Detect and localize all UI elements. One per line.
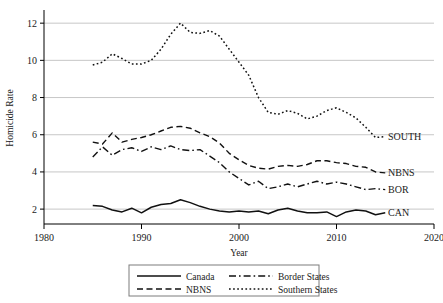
chart-canvas: 2468101219801990200020102020YearHomicide… bbox=[0, 0, 443, 303]
legend-label-canada: Canada bbox=[186, 272, 215, 282]
x-tick-label-2010: 2010 bbox=[327, 232, 347, 243]
y-tick-label-10: 10 bbox=[27, 55, 37, 66]
series-line-canada bbox=[93, 200, 386, 217]
y-axis-title: Homicide Rate bbox=[5, 89, 15, 146]
y-tick-label-2: 2 bbox=[32, 204, 37, 215]
x-tick-label-2000: 2000 bbox=[229, 232, 249, 243]
series-end-label-nbns: NBNS bbox=[388, 167, 415, 178]
legend-label-southern-states: Southern States bbox=[278, 285, 338, 295]
x-tick-label-2020: 2020 bbox=[424, 232, 443, 243]
series-line-border-states bbox=[93, 146, 386, 190]
y-tick-label-4: 4 bbox=[32, 166, 37, 177]
y-tick-label-6: 6 bbox=[32, 129, 37, 140]
y-tick-label-12: 12 bbox=[27, 18, 37, 29]
x-axis-title: Year bbox=[230, 248, 248, 258]
series-end-label-bor: BOR bbox=[388, 184, 409, 195]
legend-label-border-states: Border States bbox=[278, 272, 330, 282]
series-line-nbns bbox=[93, 126, 386, 172]
legend-label-nbns: NBNS bbox=[186, 285, 211, 295]
series-line-southern-states bbox=[93, 23, 386, 137]
x-tick-label-1980: 1980 bbox=[34, 232, 54, 243]
homicide-rate-line-chart: 2468101219801990200020102020YearHomicide… bbox=[0, 0, 443, 303]
y-tick-label-8: 8 bbox=[32, 92, 37, 103]
x-tick-label-1990: 1990 bbox=[132, 232, 152, 243]
series-end-label-south: SOUTH bbox=[388, 131, 421, 142]
series-end-label-can: CAN bbox=[388, 207, 409, 218]
